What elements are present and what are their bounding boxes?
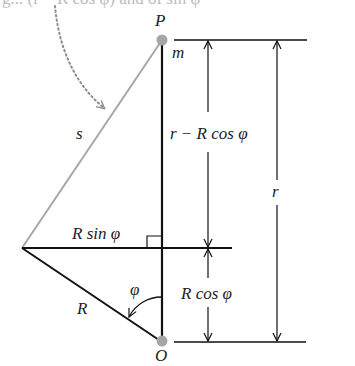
label-s: s [76, 124, 83, 143]
label-r-minus-rcos: r − R cos φ [170, 124, 248, 143]
right-angle-marker [147, 236, 161, 248]
string-s-line [22, 40, 162, 248]
label-r: r [272, 182, 279, 201]
phi-angle-arc [129, 297, 161, 317]
radius-R-line [22, 248, 162, 342]
label-phi: φ [130, 280, 139, 299]
label-m: m [172, 43, 184, 62]
svg-text:g... (r − R cos φ) and of sin: g... (r − R cos φ) and of sin φ [2, 0, 200, 8]
point-P-mass [157, 35, 168, 46]
dotted-swing-arrow [55, 6, 104, 108]
label-R: R [76, 299, 88, 318]
label-rsin: R sin φ [71, 224, 120, 243]
pendulum-geometry-diagram: g... (r − R cos φ) and of sin φ [0, 0, 355, 366]
label-rcos: R cos φ [180, 284, 232, 303]
cut-off-caption: g... (r − R cos φ) and of sin φ [2, 0, 200, 8]
label-O: O [155, 346, 167, 365]
point-O-pivot [157, 336, 168, 347]
label-P: P [154, 11, 165, 30]
